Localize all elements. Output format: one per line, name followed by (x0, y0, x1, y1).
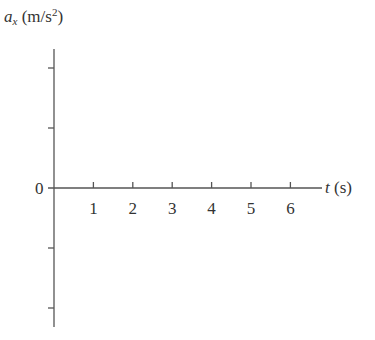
x-tick-label: 3 (162, 199, 182, 219)
y-axis-label: ax (m/s2) (4, 7, 63, 27)
x-ticks (93, 182, 290, 188)
x-axis-label: t (s) (325, 179, 352, 196)
axes (0, 0, 375, 340)
x-tick-label: 2 (123, 199, 143, 219)
x-tick-label: 4 (202, 199, 222, 219)
x-tick-label: 6 (280, 199, 300, 219)
y-tick-label-zero: 0 (35, 180, 44, 197)
x-tick-label: 1 (83, 199, 103, 219)
x-tick-label: 5 (241, 199, 261, 219)
